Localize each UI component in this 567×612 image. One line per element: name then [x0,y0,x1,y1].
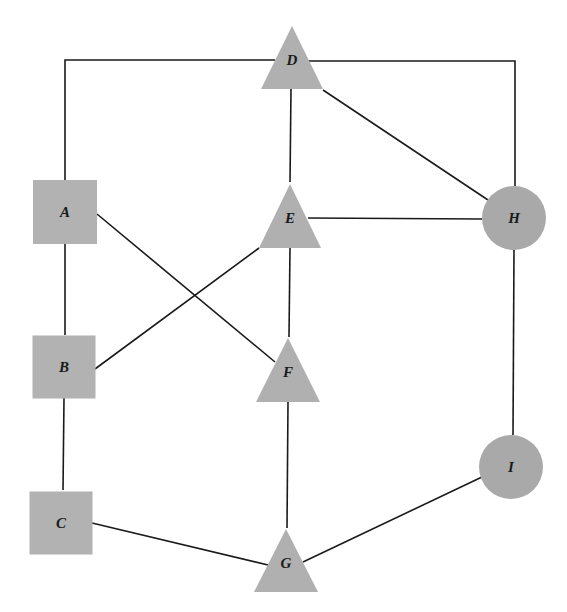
node-label: A [59,204,70,220]
edge-h-i [513,250,514,435]
edge-f-g [287,402,288,528]
node-b: B [33,336,96,399]
graph-diagram: ABCDEFGHI [0,0,567,612]
edge-b-c [63,398,64,490]
node-a: A [33,180,97,244]
node-h: H [482,186,546,250]
node-label: F [282,364,293,380]
node-label: D [286,52,298,68]
node-label: B [58,359,69,375]
node-label: I [507,459,515,475]
node-c: C [30,492,93,555]
edge-e-h [308,218,482,219]
node-label: G [281,555,292,571]
node-label: H [507,210,521,226]
node-label: E [284,210,295,226]
edge-e-f [289,248,290,337]
edge-d-e [290,89,291,182]
node-i: I [479,435,543,499]
node-label: C [56,515,67,531]
